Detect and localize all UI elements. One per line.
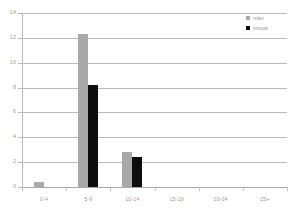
bar-vrouw-10-14[interactable]	[132, 157, 142, 187]
bar-man-5-9[interactable]	[78, 34, 88, 187]
chart-legend: man vrouw	[246, 14, 268, 34]
gridline	[22, 88, 287, 89]
x-axis-label: 15-19	[157, 196, 197, 202]
y-axis-label: 0	[0, 184, 16, 189]
y-axis-label: 6	[0, 109, 16, 114]
gridline	[22, 112, 287, 113]
legend-item-vrouw[interactable]: vrouw	[246, 24, 268, 32]
y-axis-label: 10	[0, 60, 16, 65]
y-axis-label: 4	[0, 134, 16, 139]
x-axis-tick	[155, 187, 156, 191]
y-axis-label: 14	[0, 10, 16, 15]
gridline	[22, 162, 287, 163]
y-axis-label: 12	[0, 35, 16, 40]
legend-label-man: man	[253, 14, 264, 22]
x-axis-tick	[110, 187, 111, 191]
plot-area	[22, 13, 287, 187]
y-axis-label: 8	[0, 85, 16, 90]
legend-swatch-man-icon	[246, 16, 250, 20]
gridline	[22, 137, 287, 138]
bar-chart: 02468101214 0-45-910-1415-1920-2425+ man…	[0, 0, 294, 216]
x-axis-label: 10-14	[112, 196, 152, 202]
x-axis-tick	[22, 187, 23, 191]
x-axis-label: 0-4	[24, 196, 64, 202]
y-axis-label: 2	[0, 159, 16, 164]
x-axis-tick	[66, 187, 67, 191]
bar-vrouw-5-9[interactable]	[88, 85, 98, 187]
x-axis-label: 25+	[245, 196, 285, 202]
x-axis-tick	[243, 187, 244, 191]
x-axis-label: 5-9	[68, 196, 108, 202]
x-axis-tick	[287, 187, 288, 191]
bar-man-10-14[interactable]	[122, 152, 132, 187]
bar-man-0-4[interactable]	[34, 182, 44, 187]
legend-swatch-vrouw-icon	[246, 26, 250, 30]
x-axis-tick	[199, 187, 200, 191]
legend-item-man[interactable]: man	[246, 14, 268, 22]
legend-label-vrouw: vrouw	[253, 24, 268, 32]
gridline	[22, 63, 287, 64]
gridline	[22, 38, 287, 39]
x-axis-label: 20-24	[201, 196, 241, 202]
